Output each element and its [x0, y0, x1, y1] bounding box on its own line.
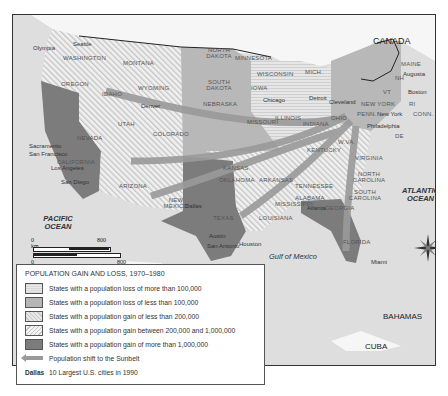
arrow-icon: [25, 356, 43, 360]
state-kentucky: KENTUCKY: [307, 147, 341, 153]
city-san-antonio: San Antonio: [207, 243, 239, 249]
state-oregon: OREGON: [61, 81, 89, 87]
city-atlanta: Atlanta: [307, 205, 326, 211]
state-ri: RI: [409, 101, 415, 107]
legend-swatch: [25, 311, 43, 322]
state-alabama: ALABAMA: [295, 195, 325, 201]
city-augusta: Augusta: [403, 71, 425, 77]
state-north-dakota: NORTH DAKOTA: [201, 47, 237, 59]
state-minnesota: MINNESOTA: [235, 55, 272, 61]
state-colorado: COLORADO: [153, 131, 189, 137]
state-conn: CONN.: [413, 111, 433, 117]
legend-title: POPULATION GAIN AND LOSS, 1970–1980: [25, 270, 256, 277]
state-iowa: IOWA: [251, 85, 268, 91]
state-washington: WASHINGTON: [63, 55, 106, 61]
city-cleveland: Cleveland: [329, 99, 356, 105]
legend-swatch: [25, 339, 43, 350]
state-ohio: OHIO: [331, 115, 347, 121]
legend-item-city-key: Dallas 10 Largest U.S. cities in 1990: [25, 365, 256, 379]
label-pacific-ocean: PACIFIC OCEAN: [33, 215, 83, 230]
compass-rose-icon: [413, 233, 436, 263]
state-south-dakota: SOUTH DAKOTA: [201, 79, 237, 91]
state-texas: TEXAS: [213, 215, 234, 221]
state-utah: UTAH: [118, 121, 135, 127]
state-wyoming: WYOMING: [138, 85, 169, 91]
legend-swatch: [25, 297, 43, 308]
legend-item-gain-small: States with a population gain of less th…: [25, 309, 256, 323]
city-boston: Boston: [408, 89, 427, 95]
city-denver: Denver: [141, 103, 160, 109]
city-olympia: Olympia: [33, 45, 55, 51]
state-vt: VT: [383, 89, 391, 95]
city-sacramento: Sacramento: [29, 143, 61, 149]
state-georgia: GEORGIA: [325, 205, 354, 211]
state-oklahoma: OKLAHOMA: [219, 177, 255, 183]
state-south-carolina: SOUTH CAROLINA: [345, 189, 385, 201]
legend-item-loss-large: States with a population loss of more th…: [25, 281, 256, 295]
legend-item-loss-small: States with a population loss of less th…: [25, 295, 256, 309]
city-dallas: Dallas: [185, 203, 202, 209]
city-chicago: Chicago: [263, 97, 285, 103]
legend-item-gain-large: States with a population gain of more th…: [25, 337, 256, 351]
state-arizona: ARIZONA: [119, 183, 147, 189]
state-montana: MONTANA: [123, 60, 154, 66]
state-illinois: ILLINOIS: [275, 115, 301, 121]
state-tennessee: TENNESSEE: [295, 183, 333, 189]
label-bahamas: BAHAMAS: [383, 313, 422, 321]
state-nevada: NEVADA: [77, 135, 102, 141]
state-michigan: MICH.: [305, 69, 323, 75]
city-philadelphia: Philadelphia: [367, 123, 400, 129]
label-atlantic-ocean: ATLANTIC OCEAN: [398, 187, 436, 202]
city-austin: Austin: [209, 233, 226, 239]
state-north-carolina: NORTH CAROLINA: [349, 171, 389, 183]
state-louisiana: LOUISIANA: [259, 215, 293, 221]
state-virginia: VIRGINIA: [355, 155, 383, 161]
state-arkansas: ARKANSAS: [259, 177, 293, 183]
city-miami: Miami: [371, 259, 387, 265]
state-indiana: INDIANA: [303, 121, 329, 127]
state-florida: FLORIDA: [343, 239, 370, 245]
city-san-diego: San Diego: [61, 179, 89, 185]
state-west-virginia: W.VA.: [338, 139, 355, 145]
state-penn: PENN.: [357, 111, 376, 117]
city-new-york: New York: [377, 111, 402, 117]
label-canada: CANADA: [373, 37, 411, 46]
legend-item-gain-mid: States with a population gain between 20…: [25, 323, 256, 337]
state-wisconsin: WISCONSIN: [257, 71, 293, 77]
legend: POPULATION GAIN AND LOSS, 1970–1980 Stat…: [16, 264, 265, 385]
label-gulf-of-mexico: Gulf of Mexico: [269, 253, 317, 261]
legend-swatch: [25, 283, 43, 294]
state-new-york: NEW YORK: [361, 101, 395, 107]
state-missouri: MISSOURI: [247, 119, 278, 125]
city-los-angeles: Los Angeles: [51, 165, 84, 171]
city-detroit: Detroit: [309, 95, 327, 101]
state-nebraska: NEBRASKA: [203, 101, 237, 107]
state-de: DE: [395, 133, 404, 139]
state-idaho: IDAHO: [102, 91, 122, 97]
label-cuba: CUBA: [365, 343, 387, 351]
state-kansas: KANSAS: [223, 165, 249, 171]
city-seattle: Seattle: [73, 41, 92, 47]
city-houston: Houston: [239, 241, 261, 247]
city-san-francisco: San Francisco: [29, 151, 67, 157]
state-maine: MAINE: [401, 61, 421, 67]
legend-swatch: [25, 325, 43, 336]
legend-item-sunbelt-arrow: Population shift to the Sunbelt: [25, 351, 256, 365]
